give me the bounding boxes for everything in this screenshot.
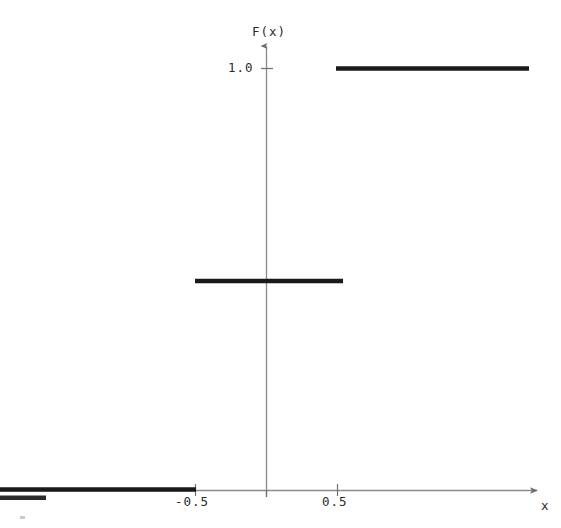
y-axis-title: F(x) xyxy=(252,24,286,39)
x-axis-title: x xyxy=(541,498,550,513)
x-tick-label-0-5: 0.5 xyxy=(322,494,348,509)
scan-artifact xyxy=(0,496,46,501)
x-tick-label-neg-0-5: -0.5 xyxy=(175,494,209,509)
cdf-step-plot-figure: F(x) x 1.0 -0.5 0.5 xyxy=(0,0,561,528)
scan-artifact-dot xyxy=(20,516,25,519)
y-tick-label-1-0: 1.0 xyxy=(228,60,254,75)
plot-canvas xyxy=(0,0,561,528)
